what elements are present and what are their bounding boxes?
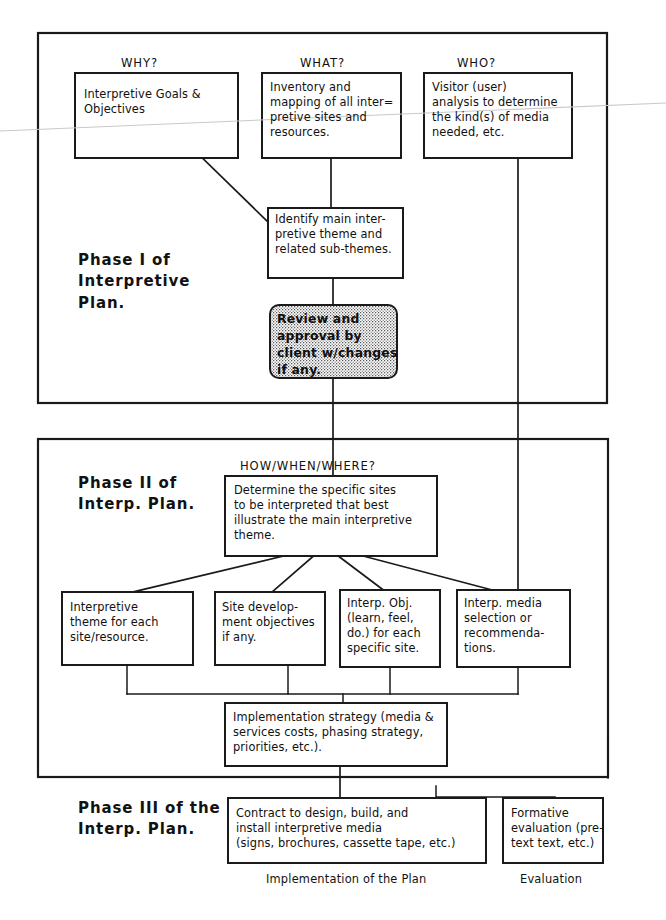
- text-identify-theme: Identify main inter- pretive theme and r…: [275, 212, 392, 257]
- flowchart-diagram: WHY? WHAT? WHO? HOW/WHEN/WHERE? Phase I …: [0, 0, 666, 920]
- text-visitor-analysis: Visitor (user) analysis to determine the…: [432, 80, 558, 140]
- text-formative-evaluation: Formative evaluation (pre- text text, et…: [511, 806, 603, 851]
- label-phase-1: Phase I of Interpretive Plan.: [78, 250, 190, 314]
- header-who: WHO?: [457, 56, 496, 71]
- label-phase-2: Phase II of Interp. Plan.: [78, 473, 195, 516]
- text-interp-media-selection: Interp. media selection or recommenda- t…: [464, 596, 545, 656]
- text-interp-obj: Interp. Obj. (learn, feel, do.) for each…: [347, 596, 421, 656]
- text-review-approval: Review and approval by client w/changes …: [277, 311, 397, 378]
- label-phase-3: Phase III of the Interp. Plan.: [78, 798, 221, 841]
- text-goals-objectives: Interpretive Goals & Objectives: [84, 87, 201, 117]
- text-inventory-mapping: Inventory and mapping of all inter= pret…: [270, 80, 394, 140]
- header-how-when-where: HOW/WHEN/WHERE?: [240, 459, 376, 474]
- caption-evaluation: Evaluation: [520, 872, 582, 887]
- text-interpretive-theme-each-site: Interpretive theme for each site/resourc…: [70, 600, 159, 645]
- text-contract-design-build: Contract to design, build, and install i…: [236, 806, 455, 851]
- header-what: WHAT?: [300, 56, 345, 71]
- header-why: WHY?: [121, 56, 158, 71]
- text-implementation-strategy: Implementation strategy (media & service…: [233, 710, 434, 755]
- caption-implementation-of-plan: Implementation of the Plan: [266, 872, 426, 887]
- text-determine-specific-sites: Determine the specific sites to be inter…: [234, 483, 412, 543]
- text-site-development-objectives: Site develop- ment objectives if any.: [222, 600, 315, 645]
